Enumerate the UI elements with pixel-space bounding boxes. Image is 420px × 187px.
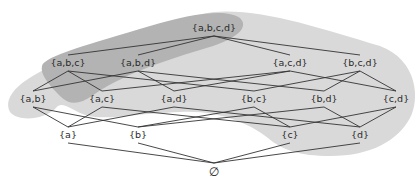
hasse-diagram: {a,b,c,d}{a,b,c}{a,b,d}{a,c,d}{b,c,d}{a,… (0, 0, 420, 187)
node-ac: {a,c} (89, 93, 115, 104)
node-acd: {a,c,d} (272, 57, 307, 68)
node-c: {c} (281, 129, 298, 140)
edge-c-empty (214, 143, 290, 163)
edge-a-empty (68, 143, 214, 163)
node-ad: {a,d} (161, 93, 188, 104)
node-a: {a} (59, 129, 77, 140)
node-b: {b} (129, 129, 147, 140)
node-d: {d} (351, 129, 369, 140)
node-bd: {b,d} (310, 93, 337, 104)
node-bcd: {b,c,d} (342, 57, 377, 68)
node-cd: {c,d} (383, 93, 409, 104)
node-empty: ∅ (209, 165, 219, 179)
edge-b-empty (138, 143, 214, 163)
node-ab: {a,b} (20, 93, 47, 104)
node-abd: {a,b,d} (120, 57, 156, 68)
node-abc: {a,b,c} (50, 57, 85, 68)
node-bc: {b,c} (241, 93, 267, 104)
node-abcd: {a,b,c,d} (192, 22, 236, 33)
